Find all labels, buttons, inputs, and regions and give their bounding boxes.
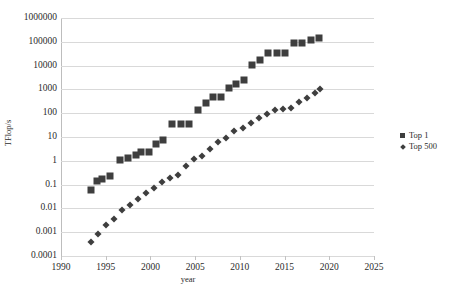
legend-item[interactable]: Top 500	[400, 141, 437, 152]
grid-line	[61, 161, 374, 162]
data-point-top-500	[183, 162, 190, 169]
legend-item-label: Top 500	[409, 141, 437, 152]
grid-line	[61, 89, 374, 90]
y-axis-tick-label: 100000	[29, 37, 58, 47]
square-marker-icon	[400, 133, 405, 138]
y-axis-tick-label: 1	[52, 156, 57, 166]
grid-line	[61, 113, 374, 114]
data-point-top-500	[255, 115, 262, 122]
x-axis-tick-label: 2015	[275, 262, 294, 272]
data-point-top-1	[152, 141, 159, 148]
data-point-top-1	[177, 120, 184, 127]
data-point-top-1	[308, 36, 315, 43]
x-axis-tick-label: 2020	[320, 262, 339, 272]
data-point-top-1	[99, 176, 106, 183]
data-point-top-1	[202, 99, 209, 106]
chart-legend: Top 1Top 500	[400, 130, 437, 152]
x-axis-tick-label: 1990	[52, 262, 71, 272]
data-point-top-1	[249, 62, 256, 69]
y-axis-tick-label: 100	[43, 108, 57, 118]
data-point-top-500	[263, 110, 270, 117]
data-point-top-1	[210, 94, 217, 101]
data-point-top-1	[168, 120, 175, 127]
diamond-marker-icon	[400, 144, 406, 150]
x-axis-tick-label: 2005	[186, 262, 205, 272]
data-point-top-500	[223, 135, 230, 142]
y-axis-tick-label: 10000	[33, 61, 57, 71]
x-axis-tick	[195, 256, 196, 260]
data-point-top-1	[138, 148, 145, 155]
data-point-top-500	[231, 128, 238, 135]
data-point-top-500	[199, 152, 206, 159]
grid-line	[61, 18, 374, 19]
data-point-top-500	[215, 139, 222, 146]
data-point-top-1	[117, 157, 124, 164]
grid-line	[61, 42, 374, 43]
legend-item-label: Top 1	[409, 130, 428, 141]
data-point-top-500	[175, 172, 182, 179]
data-point-top-1	[282, 49, 289, 56]
data-point-top-1	[88, 186, 95, 193]
y-axis-title: TFlop/s	[3, 103, 13, 163]
data-point-top-500	[94, 231, 101, 238]
x-axis-tick	[285, 256, 286, 260]
x-axis-tick-label: 2000	[141, 262, 160, 272]
y-axis-tick-label: 0.1	[45, 180, 57, 190]
y-axis-tick-label: 1000	[38, 84, 57, 94]
data-point-top-500	[279, 105, 286, 112]
data-point-top-1	[265, 49, 272, 56]
data-point-top-500	[102, 221, 109, 228]
data-point-top-1	[107, 173, 114, 180]
data-point-top-500	[110, 216, 117, 223]
y-axis-tick-label: 0.001	[36, 227, 57, 237]
data-point-top-1	[194, 106, 201, 113]
data-point-top-1	[159, 137, 166, 144]
y-axis-tick-label: 0.01	[40, 203, 57, 213]
data-point-top-1	[145, 148, 152, 155]
data-point-top-500	[167, 174, 174, 181]
y-axis-tick-label: 1000000	[24, 13, 57, 23]
x-axis-tick	[329, 256, 330, 260]
legend-item[interactable]: Top 1	[400, 130, 437, 141]
data-point-top-1	[299, 39, 306, 46]
y-axis-tick-label: 0.0001	[31, 251, 57, 261]
x-axis-tick	[240, 256, 241, 260]
grid-line	[61, 185, 374, 186]
data-point-top-500	[287, 104, 294, 111]
data-point-top-1	[274, 49, 281, 56]
data-point-top-1	[291, 39, 298, 46]
x-axis-tick-label: 2010	[230, 262, 249, 272]
data-point-top-1	[125, 154, 132, 161]
chart-root: 10000001000001000010001001010.10.010.001…	[0, 0, 452, 296]
x-axis-tick-label: 2025	[365, 262, 384, 272]
data-point-top-500	[239, 124, 246, 131]
plot-area	[61, 18, 374, 256]
grid-line	[61, 66, 374, 67]
x-axis-tick	[106, 256, 107, 260]
x-axis-tick-label: 1995	[96, 262, 115, 272]
grid-line	[61, 232, 374, 233]
data-point-top-1	[185, 120, 192, 127]
grid-line	[61, 208, 374, 209]
data-point-top-1	[218, 94, 225, 101]
data-point-top-1	[241, 76, 248, 83]
data-point-top-500	[295, 99, 302, 106]
x-axis-title: year	[181, 274, 196, 284]
x-axis-tick	[150, 256, 151, 260]
grid-line	[61, 256, 374, 257]
y-axis-tick-label: 10	[48, 132, 58, 142]
data-point-top-500	[247, 119, 254, 126]
x-axis-tick	[61, 256, 62, 260]
data-point-top-1	[226, 85, 233, 92]
data-point-top-1	[257, 56, 264, 63]
data-point-top-500	[134, 195, 141, 202]
data-point-top-500	[118, 207, 125, 214]
data-point-top-500	[88, 238, 95, 245]
x-axis-tick	[374, 256, 375, 260]
data-point-top-1	[233, 80, 240, 87]
data-point-top-500	[207, 145, 214, 152]
data-point-top-500	[303, 95, 310, 102]
data-point-top-500	[142, 189, 149, 196]
data-point-top-1	[316, 34, 323, 41]
